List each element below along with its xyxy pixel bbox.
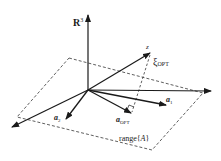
a2-vector-arrow	[66, 90, 88, 119]
range-a-label: range{A}	[119, 134, 150, 143]
a1-vector-arrow	[88, 90, 166, 105]
projection-diagram: R3 z ξOPT a1 a2 aOPT range{A}	[0, 0, 221, 161]
r3-label: R3	[73, 17, 83, 28]
left-axis-arrow	[12, 90, 88, 127]
right-angle-marker	[127, 105, 134, 110]
z-label: z	[145, 43, 149, 51]
a2-label: a2	[54, 113, 61, 123]
range-plane	[17, 58, 203, 150]
z-vector-arrow	[88, 53, 150, 90]
aopt-label: aOPT	[116, 115, 129, 125]
xi-opt-label: ξOPT	[153, 56, 169, 68]
a1-label: a1	[166, 95, 173, 105]
aopt-vector-arrow	[88, 90, 131, 113]
xi-opt-projection-line	[132, 55, 150, 112]
